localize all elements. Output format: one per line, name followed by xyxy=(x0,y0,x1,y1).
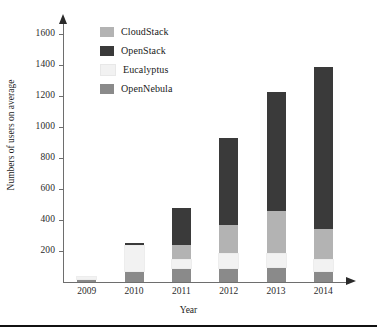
y-tick-label: 200 xyxy=(40,245,55,255)
bar-segment-eucalyptus-2010 xyxy=(125,246,144,272)
y-tick-label: 1600 xyxy=(36,28,55,38)
bar-2014 xyxy=(314,67,333,282)
footer-rule-divider xyxy=(0,325,377,327)
bar-2012 xyxy=(219,138,238,282)
bar-segment-eucalyptus-2012 xyxy=(219,254,238,268)
legend-swatch-openstack-icon xyxy=(100,46,114,56)
x-tick-label-2010: 2010 xyxy=(111,286,157,296)
y-tick-label: 1000 xyxy=(36,121,55,131)
bar-2010 xyxy=(125,243,144,282)
legend-label: OpenNebula xyxy=(121,83,173,94)
legend-item-opennebula[interactable]: OpenNebula xyxy=(100,79,230,98)
y-tick-label: 800 xyxy=(40,152,55,162)
x-tick-label-2014: 2014 xyxy=(300,286,346,296)
y-tick-label: 1400 xyxy=(36,59,55,69)
bar-segment-openstack-2013 xyxy=(267,92,286,211)
legend-swatch-eucalyptus-icon xyxy=(100,64,116,76)
bar-2013 xyxy=(267,92,286,282)
legend-label: OpenStack xyxy=(121,45,166,56)
y-axis-title: Numbers of users on average xyxy=(6,45,16,225)
bar-segment-opennebula-2011 xyxy=(172,268,191,282)
bar-segment-cloudstack-2011 xyxy=(172,245,191,261)
bar-segment-opennebula-2012 xyxy=(219,268,238,282)
bar-segment-eucalyptus-2011 xyxy=(172,260,191,268)
bar-2009 xyxy=(77,277,96,282)
y-tick-label: 1200 xyxy=(36,90,55,100)
bar-segment-cloudstack-2014 xyxy=(314,229,333,260)
bar-segment-cloudstack-2013 xyxy=(267,211,286,254)
bar-2011 xyxy=(172,208,191,283)
figure-container: Numbers of users on average Year 2004006… xyxy=(0,0,377,332)
bar-segment-opennebula-2009 xyxy=(77,279,96,282)
legend-swatch-opennebula-icon xyxy=(100,84,114,94)
bar-segment-openstack-2011 xyxy=(172,208,191,245)
bar-segment-eucalyptus-2013 xyxy=(267,254,286,267)
bar-segment-openstack-2014 xyxy=(314,67,333,229)
x-tick-label-2012: 2012 xyxy=(206,286,252,296)
legend-label: CloudStack xyxy=(121,26,169,37)
bar-segment-eucalyptus-2014 xyxy=(314,260,333,271)
chart-legend: CloudStackOpenStackEucalyptusOpenNebula xyxy=(100,22,230,98)
legend-item-eucalyptus[interactable]: Eucalyptus xyxy=(100,60,230,79)
bar-segment-opennebula-2010 xyxy=(125,271,144,282)
y-tick-label: 600 xyxy=(40,183,55,193)
y-tick-label: 400 xyxy=(40,214,55,224)
x-tick-label-2011: 2011 xyxy=(158,286,204,296)
legend-label: Eucalyptus xyxy=(123,64,168,75)
bar-segment-cloudstack-2012 xyxy=(219,225,238,255)
x-tick-label-2009: 2009 xyxy=(64,286,110,296)
x-tick-label-2013: 2013 xyxy=(253,286,299,296)
bar-segment-openstack-2012 xyxy=(219,138,238,225)
legend-item-cloudstack[interactable]: CloudStack xyxy=(100,22,230,41)
bar-segment-opennebula-2014 xyxy=(314,271,333,282)
x-axis-title: Year xyxy=(0,305,377,315)
legend-item-openstack[interactable]: OpenStack xyxy=(100,41,230,60)
bar-segment-opennebula-2013 xyxy=(267,267,286,282)
legend-swatch-cloudstack-icon xyxy=(100,27,114,37)
